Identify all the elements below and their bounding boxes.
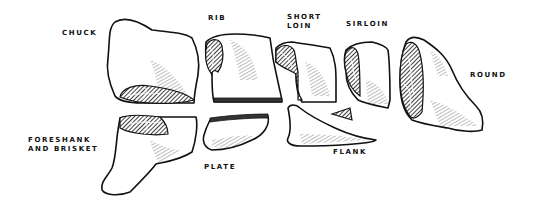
label-short-loin-line2: LOIN: [287, 22, 322, 31]
foreshank-brisket-cut: [102, 115, 197, 195]
label-foreshank-line1: FORESHANK: [28, 136, 98, 145]
round-cut: [400, 37, 483, 131]
label-foreshank-line2: AND BRISKET: [28, 145, 98, 154]
label-short-loin-line1: SHORT: [287, 13, 322, 22]
rib-cut: [206, 34, 282, 102]
label-foreshank-and-brisket: FORESHANK AND BRISKET: [28, 136, 98, 154]
plate-cut: [203, 114, 268, 150]
flank-cut: [288, 105, 377, 146]
label-sirloin: SIRLOIN: [346, 20, 389, 29]
sirloin-cut: [345, 42, 391, 108]
label-flank: FLANK: [333, 148, 367, 157]
label-round: ROUND: [470, 71, 507, 80]
label-rib: RIB: [208, 14, 226, 23]
label-short-loin: SHORT LOIN: [287, 13, 322, 31]
label-plate: PLATE: [204, 163, 236, 172]
label-chuck: CHUCK: [62, 29, 97, 38]
short-loin-cut: [276, 42, 336, 102]
chuck-cut: [107, 20, 198, 104]
